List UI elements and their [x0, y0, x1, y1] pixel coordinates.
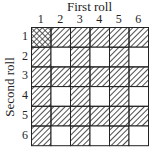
grid-cell-blank — [51, 47, 71, 67]
grid-cell-hatched — [110, 67, 130, 87]
column-label: 1 — [31, 13, 51, 26]
grid-cell-hatched — [129, 106, 149, 126]
grid-cell-blank — [129, 87, 149, 107]
grid-cell-hatched — [90, 67, 110, 87]
grid-cell-blank — [90, 47, 110, 67]
row-label: 3 — [20, 66, 30, 86]
row-label: 2 — [20, 47, 30, 67]
grid-cell-blank — [51, 126, 71, 146]
grid-cell-blank — [129, 47, 149, 67]
grid-cell-hatched — [51, 106, 71, 126]
grid-cell-hatched — [71, 87, 91, 107]
grid-cell-hatched — [90, 106, 110, 126]
column-label: 6 — [129, 13, 149, 26]
grid-cell-hatched — [71, 126, 91, 146]
grid-cell-blank — [51, 87, 71, 107]
grid-cell-crosshatch — [32, 28, 52, 48]
row-label: 4 — [20, 86, 30, 106]
column-label: 4 — [90, 13, 110, 26]
grid-cell-hatched — [110, 126, 130, 146]
grid-cell-hatched — [32, 106, 52, 126]
grid-cell-hatched — [32, 126, 52, 146]
grid-cell-hatched — [129, 28, 149, 48]
grid-cell-hatched — [90, 28, 110, 48]
dice-outcome-grid — [31, 27, 149, 147]
grid-cell-hatched — [71, 47, 91, 67]
grid-cell-hatched — [71, 67, 91, 87]
grid-cell-blank — [90, 87, 110, 107]
grid-cell-hatched — [51, 67, 71, 87]
grid-cell-hatched — [32, 67, 52, 87]
grid-cell-hatched — [110, 87, 130, 107]
grid-cell-hatched — [71, 28, 91, 48]
grid-cell-blank — [129, 126, 149, 146]
column-label: 2 — [51, 13, 71, 26]
row-label: 1 — [20, 27, 30, 47]
grid-cell-hatched — [129, 67, 149, 87]
grid-cell-hatched — [32, 47, 52, 67]
grid-cell-hatched — [71, 106, 91, 126]
grid-cell-hatched — [51, 28, 71, 48]
column-label: 5 — [109, 13, 129, 26]
grid-cell-hatched — [32, 87, 52, 107]
y-axis-label: Second roll — [3, 47, 17, 127]
grid-cell-hatched — [110, 28, 130, 48]
grid-cell-hatched — [110, 47, 130, 67]
diagram-title: First roll — [31, 0, 148, 14]
grid-cell-blank — [90, 126, 110, 146]
column-label: 3 — [70, 13, 90, 26]
row-label: 5 — [20, 106, 30, 126]
grid-cell-hatched — [110, 106, 130, 126]
row-label: 6 — [20, 126, 30, 146]
